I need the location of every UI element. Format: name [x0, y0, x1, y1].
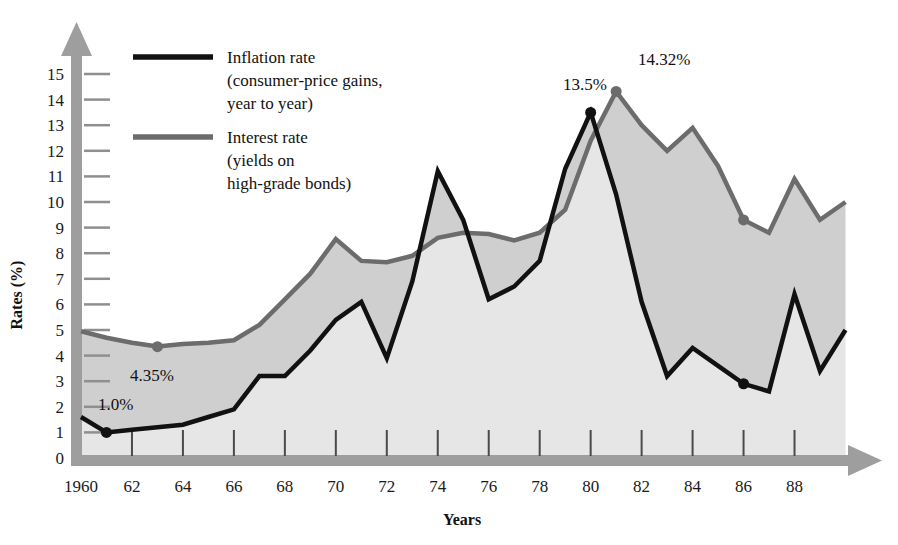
legend-inflation-line3: year to year)	[227, 94, 313, 113]
x-tick-label: 62	[123, 477, 140, 496]
x-tick-label: 1960	[64, 477, 98, 496]
x-tick-label: 82	[633, 477, 650, 496]
data-point-marker	[738, 214, 749, 225]
y-tick-label: 0	[56, 449, 65, 468]
data-point-marker	[611, 86, 622, 97]
y-tick-label: 15	[47, 65, 64, 84]
y-tick-label: 9	[56, 219, 65, 238]
x-tick-label: 88	[786, 477, 803, 496]
y-axis-arrow-icon	[61, 22, 92, 56]
y-tick-label: 8	[56, 244, 65, 263]
chart-legend: Inflation rate (consumer-price gains, ye…	[133, 48, 382, 193]
data-point-marker	[585, 107, 596, 118]
x-tick-label: 74	[429, 477, 447, 496]
annotation-label: 14.32%	[638, 50, 690, 69]
data-point-marker	[738, 378, 749, 389]
y-tick-label: 3	[56, 372, 65, 391]
y-tick-label: 6	[56, 295, 65, 314]
y-tick-label: 2	[56, 398, 65, 417]
x-tick-label: 68	[276, 477, 293, 496]
area-fills	[81, 91, 846, 458]
data-point-marker	[101, 427, 112, 438]
x-tick-label: 78	[531, 477, 548, 496]
y-tick-label: 10	[47, 193, 64, 212]
x-tick-label: 72	[378, 477, 395, 496]
y-tick-label: 14	[47, 91, 65, 110]
chart-canvas: 0123456789101112131415 19606264666870727…	[0, 0, 898, 545]
x-tick-label: 84	[684, 477, 702, 496]
legend-interest-line2: (yields on	[227, 151, 295, 170]
annotation-label: 4.35%	[130, 366, 174, 385]
legend-inflation-line2: (consumer-price gains,	[227, 71, 382, 90]
legend-interest-line1: Interest rate	[227, 128, 308, 147]
x-axis-title: Years	[443, 511, 481, 528]
data-point-marker	[152, 341, 163, 352]
y-tick-label: 11	[48, 167, 64, 186]
y-axis-title: Rates (%)	[8, 261, 26, 330]
x-tick-label: 66	[225, 477, 242, 496]
annotation-label: 13.5%	[563, 75, 607, 94]
x-tick-label: 70	[327, 477, 344, 496]
y-tick-label: 7	[56, 270, 65, 289]
x-axis-arrow-icon	[848, 445, 882, 476]
annotation-label: 1.0%	[98, 395, 133, 414]
y-tick-label: 13	[47, 116, 64, 135]
x-tick-label: 80	[582, 477, 599, 496]
x-tick-label: 64	[174, 477, 192, 496]
rates-line-chart: 0123456789101112131415 19606264666870727…	[0, 0, 898, 545]
y-tick-labels: 0123456789101112131415	[47, 65, 65, 468]
legend-interest-line3: high-grade bonds)	[227, 174, 351, 193]
y-tick-label: 1	[56, 423, 65, 442]
x-tick-labels: 19606264666870727476788082848688	[64, 477, 803, 496]
y-tick-label: 5	[56, 321, 65, 340]
x-tick-label: 76	[480, 477, 497, 496]
x-tick-label: 86	[735, 477, 752, 496]
y-tick-label: 12	[47, 142, 64, 161]
y-tick-label: 4	[56, 347, 65, 366]
legend-inflation-line1: Inflation rate	[227, 48, 315, 67]
